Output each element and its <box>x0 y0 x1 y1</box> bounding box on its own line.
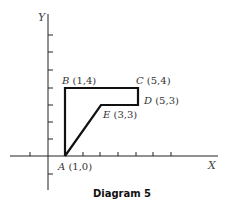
label-a: A (1,0) <box>57 161 92 172</box>
label-b: B (1,4) <box>61 75 96 86</box>
y-axis-label: Y <box>38 11 47 24</box>
coordinate-diagram: Y X B (1,4) C (5,4) D (5,3) E (3,3) A (1… <box>0 0 244 212</box>
x-ticks <box>30 152 171 156</box>
label-e: E (3,3) <box>102 109 137 120</box>
label-c: C (5,4) <box>136 75 171 86</box>
y-ticks <box>48 35 53 174</box>
label-d: D (5,3) <box>143 95 179 106</box>
x-axis-label: X <box>207 159 217 172</box>
polygon-abcde <box>65 88 138 156</box>
diagram-caption: Diagram 5 <box>0 188 244 199</box>
